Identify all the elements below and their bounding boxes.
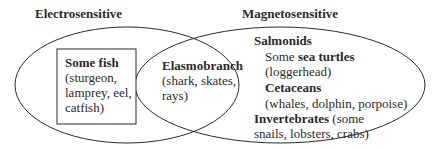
invertebrates-detail: snails, lobsters, crabs) <box>254 126 369 142</box>
sea-turtles-prefix: Some <box>265 49 298 64</box>
magnetosensitive-label: Magnetosensitive <box>242 6 338 22</box>
elasmobranch-line-2: rays) <box>162 88 188 104</box>
cetaceans-detail: (whales, dolphin, porpoise) <box>265 96 407 112</box>
electrosensitive-label: Electrosensitive <box>35 6 122 22</box>
some-fish-title: Some fish <box>65 55 119 71</box>
elasmobranch-title: Elasmobranch <box>162 58 243 74</box>
some-fish-line-2: lamprey, eel, <box>65 85 132 101</box>
salmonids-title: Salmonids <box>254 33 312 49</box>
sea-turtles-title: sea turtles <box>298 49 355 64</box>
cetaceans-title: Cetaceans <box>265 80 321 96</box>
some-fish-line-1: (sturgeon, <box>65 70 117 86</box>
some-fish-line-3: catfish) <box>65 100 104 116</box>
sea-turtles-detail: (loggerhead) <box>265 64 331 80</box>
elasmobranch-line-1: (shark, skates, <box>162 73 236 89</box>
invertebrates-line: Invertebrates (some <box>254 111 364 127</box>
sea-turtles-line: Some sea turtles <box>265 49 355 65</box>
invertebrates-title: Invertebrates <box>254 111 329 126</box>
invertebrates-suffix: (some <box>329 111 364 126</box>
